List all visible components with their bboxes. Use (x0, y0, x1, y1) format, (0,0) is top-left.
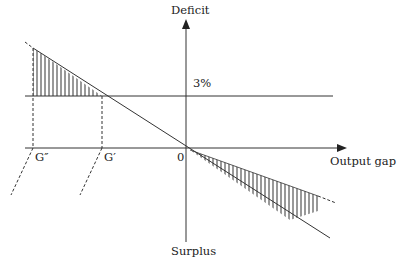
origin-label: 0 (177, 152, 184, 164)
fiscal-balance-diagram (0, 0, 399, 266)
y-axis-bottom-label: Surplus (171, 246, 216, 258)
threshold-label: 3% (193, 78, 211, 90)
g-double-prime-slant (11, 148, 33, 195)
upper-dashed-line (25, 42, 33, 48)
g-prime-slant (80, 148, 102, 195)
budget-line (33, 48, 330, 238)
y-axis-top-label: Deficit (171, 5, 209, 17)
g-double-prime-label: G″ (35, 152, 48, 164)
lower-dashed-line (318, 196, 336, 203)
g-prime-label: G′ (104, 152, 116, 164)
x-axis-label: Output gap (330, 156, 396, 168)
y-axis-arrow-icon (182, 19, 190, 29)
x-axis-arrow-icon (337, 144, 347, 152)
